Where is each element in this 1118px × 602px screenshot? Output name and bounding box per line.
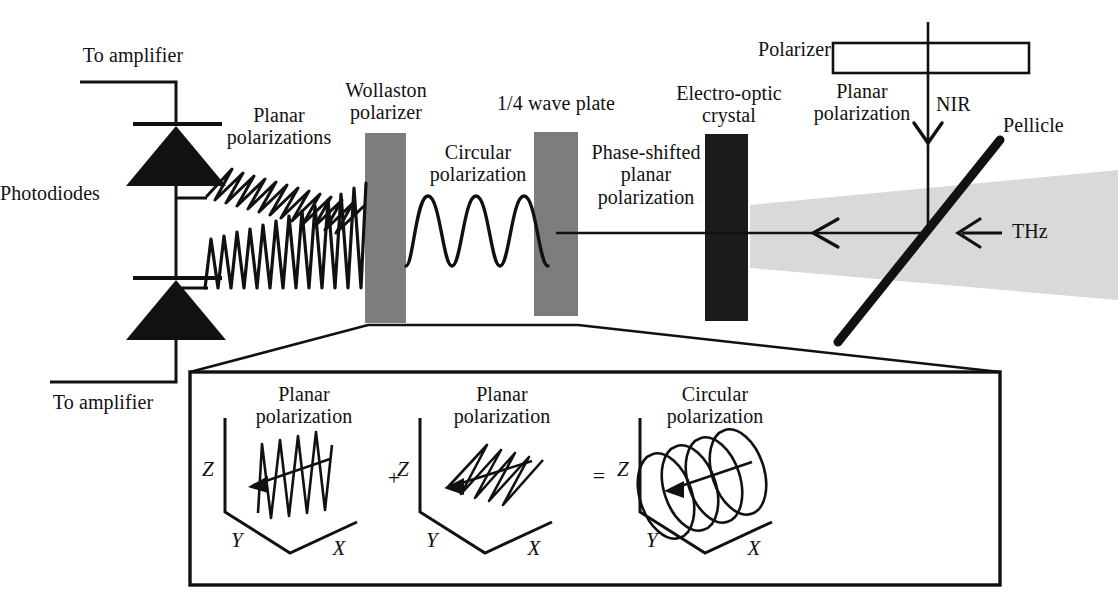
photodiode-bottom-symbol[interactable] (126, 280, 226, 340)
inset-operator-equals: = (584, 464, 614, 489)
inset-panel1-caption: Planar polarization (222, 383, 386, 428)
label-to-amplifier-top: To amplifier (43, 44, 223, 66)
panel3-propagation-arrow-head-icon (664, 481, 684, 498)
panel1-axis-y: Y (225, 529, 249, 553)
label-thz: THz (1012, 220, 1072, 242)
label-electro-optic-crystal: Electro-optic crystal (655, 82, 803, 127)
wollaston-polarizer-plate[interactable] (365, 133, 406, 323)
panel1-axis-x: X (327, 537, 351, 561)
label-quarter-wave-plate: 1/4 wave plate (466, 92, 646, 114)
label-to-amplifier-bottom: To amplifier (13, 391, 193, 413)
label-nir: NIR (936, 93, 996, 115)
panel2-axis-x: X (522, 537, 546, 561)
panel1-axis-z: Z (196, 458, 220, 482)
polarizer-box[interactable] (833, 43, 1029, 73)
panel1-propagation-arrow-head-icon (248, 476, 268, 493)
label-planar-polarization-right: Planar polarization (790, 80, 934, 125)
label-pellicle: Pellicle (1003, 114, 1118, 136)
circular-polarization-wave (406, 196, 548, 266)
figure-canvas: To amplifier Photodiodes Planar polariza… (0, 0, 1118, 602)
panel3-axis-z: Z (611, 458, 635, 482)
panel2-axis-y: Y (420, 529, 444, 553)
label-polarizer: Polarizer (735, 38, 831, 60)
label-circular-polarization: Circular polarization (401, 141, 555, 186)
label-photodiodes: Photodiodes (0, 182, 130, 204)
inset-callout-lines (190, 325, 1000, 372)
panel1-wave (258, 432, 332, 518)
inset-panel3-caption: Circular polarization (633, 383, 797, 428)
inset-panel2-caption: Planar polarization (420, 383, 584, 428)
schematic-svg (0, 0, 1118, 602)
panel2-axis-z: Z (391, 458, 415, 482)
panel3-axis-x: X (742, 537, 766, 561)
label-wollaston-polarizer: Wollaston polarizer (311, 79, 461, 124)
panel3-axis-y: Y (640, 529, 664, 553)
panel2-wave (447, 445, 543, 505)
amplifier-lead-top (80, 82, 176, 126)
planar-polarization-wave-upper (207, 169, 364, 233)
label-phase-shifted-planar-polarization: Phase-shifted planar polarization (578, 141, 714, 208)
amplifier-lead-bottom (50, 340, 176, 382)
